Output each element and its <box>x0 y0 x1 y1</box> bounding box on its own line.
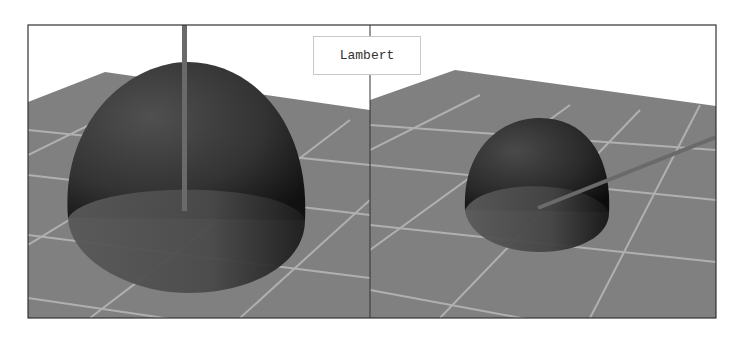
light-rod <box>182 25 187 211</box>
shading-label-text: Lambert <box>340 48 395 63</box>
right-viewport <box>370 25 716 340</box>
shading-label: Lambert <box>313 36 421 75</box>
